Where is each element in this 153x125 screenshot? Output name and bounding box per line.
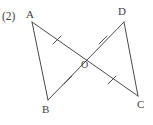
geometry-figure: (2) A D B C O — [0, 0, 153, 125]
tick-segment-b-o — [64, 76, 72, 84]
vertex-label-d: D — [118, 6, 126, 17]
vertex-label-c: C — [137, 99, 144, 110]
figure-canvas — [0, 0, 153, 125]
vertex-label-b: B — [42, 104, 49, 115]
item-number-label: (2) — [2, 11, 15, 23]
vertex-label-a: A — [26, 9, 34, 20]
segment-a-b — [32, 22, 48, 100]
vertex-label-o: O — [81, 60, 88, 70]
segment-d-c — [124, 22, 138, 96]
